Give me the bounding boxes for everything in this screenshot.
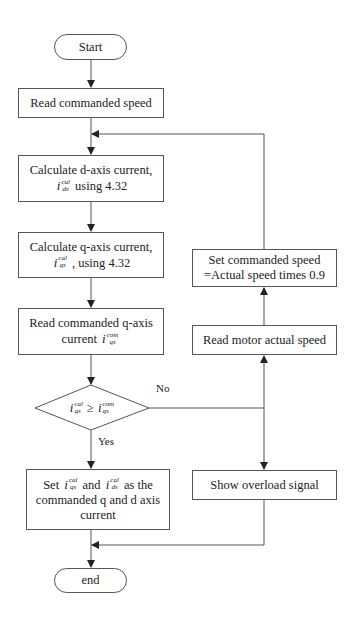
rhs-symbol: i comqs	[98, 400, 114, 416]
set-cmd-line2: =Actual speed times 0.9	[204, 268, 325, 283]
i-qs-cal-symbol: i calqs	[54, 255, 67, 270]
calc-d-line2: i calds using 4.32	[55, 178, 127, 194]
end-label: end	[81, 573, 99, 588]
read-q-line1: Read commanded q-axis	[29, 316, 153, 331]
start-label: Start	[79, 40, 103, 55]
set-currents-box: Set i calqs and i calds as the commanded…	[26, 469, 170, 530]
read-q-line2: current i comqs	[62, 331, 121, 347]
i-ds-cal-symbol: i calds	[106, 477, 119, 492]
i-ds-cal-symbol: i calds	[57, 178, 70, 193]
read-motor-speed-box: Read motor actual speed	[192, 325, 337, 355]
show-overload-label: Show overload signal	[210, 478, 318, 493]
read-commanded-q-axis-box: Read commanded q-axis current i comqs	[18, 308, 164, 355]
set-cmd-line1: Set commanded speed	[209, 253, 321, 268]
no-edge-label: No	[156, 382, 169, 394]
show-overload-box: Show overload signal	[192, 470, 337, 500]
calc-d-axis-box: Calculate d-axis current, i calds using …	[18, 155, 164, 202]
calc-q-line2: i calqs , using 4.32	[52, 255, 131, 271]
calc-q-axis-box: Calculate q-axis current, i calqs , usin…	[18, 232, 164, 278]
flowchart-canvas: Start Read commanded speed Calculate d-a…	[0, 0, 354, 621]
decision-condition: i calqs ≥ i comqs	[35, 396, 149, 420]
set-commanded-speed-box: Set commanded speed =Actual speed times …	[192, 249, 337, 287]
read-speed-label: Read commanded speed	[30, 96, 151, 111]
lhs-symbol: i calqs	[70, 400, 83, 416]
yes-edge-label: Yes	[98, 435, 114, 447]
i-qs-cal-symbol: i calqs	[64, 477, 77, 492]
start-terminal: Start	[54, 34, 127, 60]
set-currents-line2: commanded q and d axis	[36, 493, 160, 508]
calc-q-line1: Calculate q-axis current,	[30, 240, 153, 255]
read-motor-label: Read motor actual speed	[203, 333, 326, 348]
comparison-operator: ≥	[87, 401, 94, 416]
read-commanded-speed-box: Read commanded speed	[18, 88, 164, 118]
calc-d-line1: Calculate d-axis current,	[30, 163, 153, 178]
set-currents-line3: current	[80, 508, 115, 523]
end-terminal: end	[54, 568, 127, 593]
i-qs-com-symbol: i comqs	[102, 331, 118, 346]
set-currents-line1: Set i calqs and i calds as the	[43, 477, 153, 493]
